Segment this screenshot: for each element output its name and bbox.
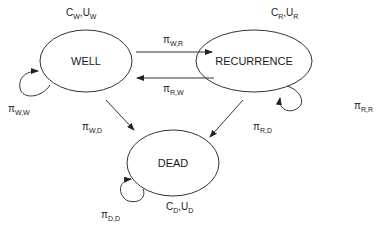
dead-label: DEAD bbox=[158, 157, 189, 169]
edge-label-well-dead: πW,D bbox=[82, 121, 102, 134]
edge-label-well-well: πW,W bbox=[8, 103, 30, 116]
edge-well-to-dead bbox=[106, 100, 134, 130]
dead-cost-utility: CD,UD bbox=[166, 201, 193, 214]
edge-label-recurrence-recurrence: πR,R bbox=[354, 100, 373, 113]
node-recurrence: RECURRENCE bbox=[196, 30, 312, 92]
edge-recurrence-self-loop bbox=[280, 86, 302, 111]
node-well: WELL bbox=[40, 30, 132, 92]
edge-label-well-recurrence: πW,R bbox=[163, 34, 183, 47]
recurrence-cost-utility: CR,UR bbox=[271, 7, 298, 20]
node-dead: DEAD bbox=[127, 130, 219, 196]
edge-recurrence-to-dead bbox=[210, 100, 243, 137]
recurrence-label: RECURRENCE bbox=[215, 55, 293, 67]
state-transition-diagram: WELL RECURRENCE DEAD CW,UW CR,UR CD,UD π… bbox=[0, 0, 380, 230]
well-cost-utility: CW,UW bbox=[66, 7, 97, 20]
edge-label-recurrence-well: πR,W bbox=[163, 83, 184, 96]
well-label: WELL bbox=[71, 55, 101, 67]
edge-label-dead-dead: πD,D bbox=[101, 209, 120, 222]
edge-label-recurrence-dead: πR,D bbox=[253, 121, 272, 134]
